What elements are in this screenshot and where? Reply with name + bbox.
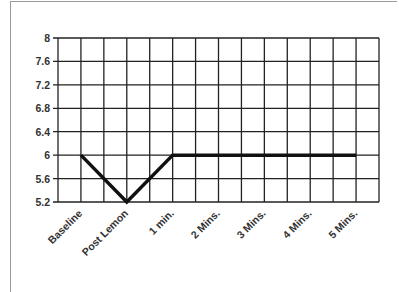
y-tick-label: 6.8 bbox=[35, 102, 50, 114]
y-tick-label: 7.2 bbox=[35, 79, 50, 91]
x-tick-label: 5 Mins. bbox=[326, 207, 360, 241]
x-tick-label: 3 Mins. bbox=[234, 207, 268, 241]
y-tick-label: 5.6 bbox=[35, 173, 50, 185]
x-tick-label: Post Lemon bbox=[79, 207, 130, 258]
y-tick-label: 8 bbox=[44, 32, 50, 44]
x-axis-labels: BaselinePost Lemon1 min.2 Mins.3 Mins.4 … bbox=[45, 207, 359, 258]
x-tick-label: 1 min. bbox=[146, 207, 176, 237]
x-tick-label: 4 Mins. bbox=[280, 207, 314, 241]
y-tick-label: 6 bbox=[44, 149, 50, 161]
y-tick-label: 6.4 bbox=[35, 126, 50, 138]
y-axis-labels: 87.67.26.86.465.65.2 bbox=[35, 32, 50, 208]
y-tick-label: 7.6 bbox=[35, 55, 50, 67]
x-tick-label: Baseline bbox=[45, 207, 84, 246]
y-tick-label: 5.2 bbox=[35, 196, 50, 208]
x-tick-label: 2 Mins. bbox=[188, 207, 222, 241]
